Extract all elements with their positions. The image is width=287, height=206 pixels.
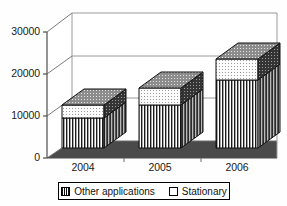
legend-item-other-applications[interactable]: Other applications — [61, 186, 155, 197]
y-axis-tick-0: 0 — [0, 151, 40, 163]
legend-label-other-applications: Other applications — [74, 186, 155, 197]
y-axis-tick-20000: 20000 — [0, 67, 40, 79]
legend-swatch-dotted-icon — [169, 187, 178, 196]
y-axis-tick-30000: 30000 — [0, 25, 40, 37]
y-axis-tick-10000: 10000 — [0, 109, 40, 121]
chart-container: 30000 20000 10000 0 2004 2005 2006 Other… — [0, 0, 287, 206]
legend-swatch-striped-icon — [61, 187, 70, 196]
legend-label-stationary: Stationary — [182, 186, 227, 197]
legend-item-stationary[interactable]: Stationary — [169, 186, 227, 197]
x-axis-tick-2004: 2004 — [58, 161, 108, 173]
chart-plot-area — [0, 0, 287, 206]
x-axis-tick-2006: 2006 — [212, 161, 262, 173]
x-axis-tick-2005: 2005 — [135, 161, 185, 173]
chart-legend: Other applications Stationary — [58, 182, 230, 200]
